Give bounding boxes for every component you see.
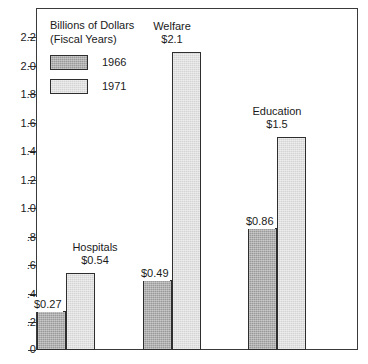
legend-swatch-1966 bbox=[50, 55, 88, 70]
legend-swatch-1971 bbox=[50, 79, 88, 94]
legend-label-1966: 1966 bbox=[102, 56, 126, 69]
group-value-hospitals: $0.54 bbox=[81, 254, 109, 266]
legend-title-line1: Billions of Dollars bbox=[50, 18, 180, 32]
value-label-welfare-1966: $0.49 bbox=[140, 266, 170, 281]
group-label-hospitals: Hospitals $0.54 bbox=[42, 241, 148, 267]
value-label-hospitals-1966: $0.27 bbox=[33, 297, 63, 312]
legend: Billions of Dollars (Fiscal Years) 1966 … bbox=[50, 18, 180, 94]
group-name-education: Education bbox=[253, 105, 302, 117]
legend-title-line2: (Fiscal Years) bbox=[50, 32, 180, 46]
legend-item-1966: 1966 bbox=[50, 55, 180, 70]
group-label-education: Education $1.5 bbox=[224, 105, 330, 131]
bar-chart: 2.2 2.0 1.8 1.6 1.4 1.2 1.0 .8 .6 .4 .2 … bbox=[0, 0, 368, 364]
group-name-hospitals: Hospitals bbox=[72, 241, 117, 253]
legend-item-1971: 1971 bbox=[50, 79, 180, 94]
group-value-education: $1.5 bbox=[266, 118, 287, 130]
legend-label-1971: 1971 bbox=[102, 80, 126, 93]
value-label-education-1966: $0.86 bbox=[245, 214, 275, 229]
